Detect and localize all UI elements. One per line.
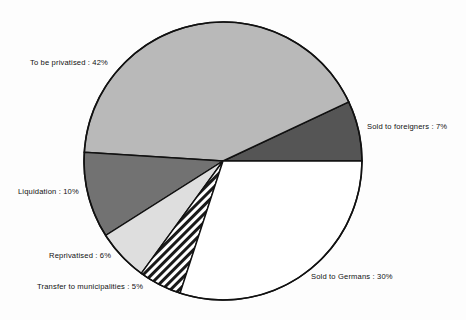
slice-label-liquidation: Liquidation : 10% [18, 187, 79, 197]
slice-label-reprivatised: Reprivatised : 6% [49, 251, 111, 261]
pie-chart-canvas [0, 0, 466, 320]
slice-label-transfer-to-municipalities: Transfer to municipalities : 5% [37, 282, 143, 292]
slice-label-sold-to-germans: Sold to Germans : 30% [311, 272, 393, 282]
slice-label-to-be-privatised: To be privatised : 42% [30, 58, 108, 68]
pie-slices [84, 22, 362, 300]
pie-chart-figure: To be privatised : 42% Sold to foreigner… [0, 0, 466, 320]
slice-label-sold-to-foreigners: Sold to foreigners : 7% [367, 122, 447, 132]
